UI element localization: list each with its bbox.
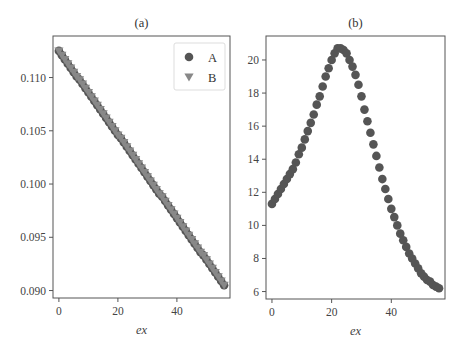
- y-tick-label: 0.100: [20, 178, 46, 190]
- x-tick-label: 40: [386, 306, 398, 318]
- y-tick-label: 6: [253, 286, 259, 298]
- marker-circle: [351, 71, 360, 80]
- y-tick-label: 8: [253, 252, 259, 264]
- marker-circle: [384, 195, 393, 204]
- marker-circle: [354, 80, 363, 89]
- marker-circle: [303, 127, 312, 136]
- y-tick-label: 12: [248, 186, 260, 198]
- y-tick-label: 18: [248, 87, 260, 99]
- marker-circle: [375, 163, 384, 172]
- legend: AB: [174, 43, 225, 90]
- series-a: [268, 44, 444, 292]
- legend-box: [174, 43, 225, 90]
- x-tick-label: 20: [112, 305, 124, 317]
- legend-label: A: [208, 51, 217, 65]
- marker-circle: [298, 143, 307, 152]
- panel-a: (a)0.0900.0950.1000.1050.11002040exAB: [20, 16, 230, 337]
- marker-circle: [300, 135, 309, 144]
- marker-circle: [378, 175, 387, 184]
- panel-title: (a): [135, 16, 149, 30]
- x-tick-label: 0: [269, 306, 275, 318]
- y-tick-label: 0.105: [20, 125, 46, 137]
- marker-circle: [324, 64, 333, 73]
- panel-b: (b)6810121416182002040ex: [248, 16, 446, 338]
- panel-title: (b): [348, 16, 363, 30]
- marker-circle: [390, 213, 399, 222]
- y-tick-label: 20: [248, 54, 260, 66]
- marker-circle: [369, 140, 378, 149]
- y-tick-label: 16: [248, 120, 260, 132]
- legend-circle-icon: [185, 53, 194, 62]
- marker-circle: [381, 185, 390, 194]
- x-tick-label: 0: [56, 305, 62, 317]
- x-axis-label: ex: [350, 324, 362, 338]
- x-axis-label: ex: [136, 323, 148, 337]
- marker-circle: [306, 119, 315, 128]
- data-points: [268, 44, 444, 292]
- y-tick-label: 0.110: [21, 72, 47, 84]
- y-tick-label: 14: [248, 153, 260, 165]
- x-tick-label: 40: [171, 305, 183, 317]
- legend-label: B: [208, 71, 216, 85]
- marker-circle: [360, 105, 369, 114]
- marker-circle: [363, 117, 372, 126]
- marker-circle: [315, 92, 324, 101]
- y-tick-label: 10: [248, 219, 260, 231]
- marker-circle: [348, 62, 357, 71]
- marker-circle: [366, 128, 375, 137]
- marker-circle: [309, 110, 318, 119]
- marker-circle: [318, 82, 327, 91]
- figure: (a)0.0900.0950.1000.1050.11002040exAB (b…: [0, 0, 460, 350]
- marker-circle: [312, 100, 321, 109]
- marker-circle: [387, 205, 396, 214]
- x-tick-label: 20: [326, 306, 338, 318]
- marker-circle: [321, 72, 330, 81]
- y-tick-label: 0.095: [20, 231, 46, 243]
- marker-circle: [372, 152, 381, 161]
- marker-circle: [357, 92, 366, 101]
- marker-circle: [292, 158, 301, 167]
- y-tick-label: 0.090: [20, 285, 46, 297]
- marker-circle: [393, 221, 402, 230]
- marker-circle: [435, 284, 444, 293]
